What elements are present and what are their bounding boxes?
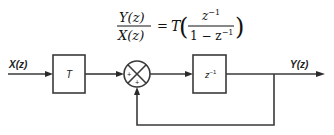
equation-rhs-denominator: 1 − z−1: [190, 28, 233, 43]
transfer-function-equation: Y(z) X(z) = T ( z−1 1 − z−1 ): [117, 8, 244, 43]
gain-block: T: [53, 55, 85, 93]
summing-sign-bottom: +: [135, 79, 139, 86]
equation-left-paren: (: [179, 13, 188, 41]
equation-lhs-denominator: X(z): [117, 28, 144, 43]
input-signal-label: X(z): [8, 59, 28, 70]
feedback-arrowhead-icon: [134, 87, 140, 95]
delay-input-arrowhead-icon: [185, 71, 193, 77]
equation-rhs-numerator: z−1: [201, 8, 220, 23]
block-diagram: Y(z) X(z) = T ( z−1 1 − z−1 ) X(z) T + +…: [0, 0, 334, 135]
equation-lhs-numerator: Y(z): [119, 10, 145, 25]
output-arrowhead-icon: [316, 71, 325, 77]
output-signal: Y(z): [226, 59, 325, 77]
input-arrowhead-icon: [45, 71, 53, 77]
delay-block: z−1: [193, 55, 226, 93]
equation-equals-sign: =: [157, 18, 168, 33]
equation-right-paren: ): [235, 13, 244, 41]
output-signal-label: Y(z): [290, 59, 309, 70]
input-signal: X(z): [8, 59, 53, 77]
summing-sign-left: +: [127, 71, 131, 78]
gain-block-label: T: [66, 69, 73, 80]
summing-junction: + +: [124, 61, 150, 87]
sum-input-arrowhead-icon: [116, 71, 124, 77]
